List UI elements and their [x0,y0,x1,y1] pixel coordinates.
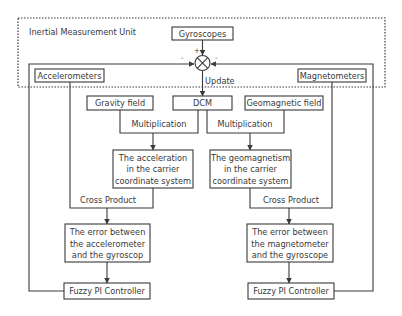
imu-fusion-diagram: Inertial Measurement Unit Gyroscopes + -… [0,0,402,316]
geomagnetic-field-label: Geomagnetic field [246,98,321,108]
update-label: Update [205,76,235,86]
accelerometer-error-block: The error between the accelerometer and … [65,224,150,262]
accelerometers-label: Accelerometers [38,71,102,81]
acceleration-line-2: in the carrier [127,164,181,174]
cross-product-left-label: Cross Product [80,195,137,205]
cross-product-right-label: Cross Product [263,195,320,205]
geomagnetism-carrier-block: The geomagnetism in the carrier coordina… [210,150,291,188]
summing-junction [195,56,210,71]
mag-error-line-2: the magnetometer [251,239,329,249]
fuzzy-pi-left-label: Fuzzy PI Controller [69,286,145,296]
sign-minus-right: - [215,54,218,62]
magnetometer-error-block: The error between the magnetometer and t… [247,224,333,262]
imu-label: Inertial Measurement Unit [29,27,137,37]
gravity-field-block: Gravity field [87,96,153,110]
mag-error-line-3: and the gyroscope [252,250,328,260]
multiplication-left-label: Multiplication [132,119,187,129]
fuzzy-pi-right-label: Fuzzy PI Controller [253,286,329,296]
multiplication-right-label: Multiplication [218,119,273,129]
sign-plus: + [194,47,200,55]
gyroscopes-label: Gyroscopes [179,29,227,39]
accel-error-line-3: and the gyroscop [72,250,143,260]
accelerometers-block: Accelerometers [35,69,104,82]
geomagnetism-line-2: in the carrier [224,164,278,174]
fuzzy-pi-controller-left: Fuzzy PI Controller [64,283,150,299]
mag-error-line-1: The error between [251,227,328,237]
magnetometers-label: Magnetometers [300,71,365,81]
acceleration-line-3: coordinate system [115,176,191,186]
magnetometers-block: Magnetometers [298,69,366,82]
geomagnetism-line-1: The geomagnetism [210,153,290,163]
accel-error-line-1: The error between [69,227,146,237]
geomagnetism-line-3: coordinate system [213,176,289,186]
geomagnetic-field-block: Geomagnetic field [245,96,323,110]
dcm-block: DCM [173,96,232,110]
accel-error-line-2: the accelerometer [70,239,146,249]
acceleration-line-1: The acceleration [118,153,187,163]
dcm-label: DCM [193,98,212,108]
acceleration-carrier-block: The acceleration in the carrier coordina… [113,150,193,188]
sign-minus-left: - [181,54,184,62]
gyroscopes-block: Gyroscopes [172,27,233,40]
gravity-field-label: Gravity field [95,98,145,108]
fuzzy-pi-controller-right: Fuzzy PI Controller [248,283,334,299]
